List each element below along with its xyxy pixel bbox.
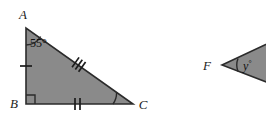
wedge-F: F y° (202, 33, 266, 91)
angle-label-a: 55° (30, 36, 47, 50)
vertex-label-a: A (18, 7, 27, 22)
geometry-figure-canvas: A B C 55° F y° (0, 0, 266, 119)
vertex-label-c: C (139, 97, 148, 112)
right-triangle-ABC: A B C 55° (10, 7, 148, 112)
vertex-label-f: F (202, 58, 212, 73)
vertex-label-b: B (10, 96, 18, 111)
geometry-diagram-svg: A B C 55° F y° (0, 0, 266, 119)
